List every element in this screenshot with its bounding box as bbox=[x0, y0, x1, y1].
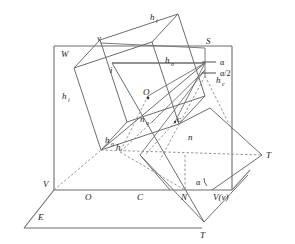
label-V-v: V(v) bbox=[213, 192, 229, 202]
label-E: E bbox=[37, 212, 44, 222]
svg-text:n: n bbox=[140, 114, 145, 124]
point-O bbox=[147, 97, 150, 100]
ground-plane-left-edge bbox=[24, 190, 54, 228]
label-v-small: v bbox=[97, 33, 101, 43]
slab-connector-edges bbox=[74, 14, 205, 150]
oblique-i-to-T bbox=[112, 63, 204, 222]
label-h-i-left: h i bbox=[62, 91, 70, 103]
label-c: c bbox=[177, 114, 181, 124]
dash-S-down-left bbox=[160, 76, 205, 160]
label-h-plain: h bbox=[116, 142, 121, 152]
label-alpha-lower: α bbox=[196, 178, 201, 187]
ground-plane-right-edge bbox=[232, 170, 250, 190]
svg-text:o: o bbox=[146, 120, 149, 126]
label-T-right: T bbox=[266, 150, 272, 160]
dashed-construction-lines bbox=[54, 76, 262, 190]
svg-text:o: o bbox=[111, 141, 114, 147]
label-O-center: O bbox=[143, 87, 150, 97]
dash-horizon bbox=[101, 150, 262, 155]
dash-to-N bbox=[120, 152, 185, 190]
svg-text:i: i bbox=[68, 97, 70, 103]
label-W: W bbox=[61, 49, 70, 59]
svg-text:h: h bbox=[150, 12, 155, 22]
svg-text:h: h bbox=[105, 135, 110, 145]
dash-O-down bbox=[120, 96, 148, 152]
label-C: C bbox=[137, 192, 144, 202]
label-alpha-half: α/2 bbox=[220, 69, 230, 78]
oblique-h-to-T bbox=[140, 155, 204, 222]
geometry-figure: h i h i W v i S h o α α/2 h c O bbox=[0, 0, 295, 244]
dash-no-down bbox=[120, 122, 152, 152]
label-V-left: V bbox=[43, 179, 50, 189]
right-triangle-T bbox=[179, 108, 262, 190]
point-c bbox=[174, 121, 176, 123]
svg-text:h: h bbox=[216, 75, 221, 85]
svg-text:h: h bbox=[62, 91, 67, 101]
label-N: N bbox=[180, 192, 188, 202]
label-h-o-upper: h o bbox=[165, 55, 174, 67]
svg-text:o: o bbox=[171, 61, 174, 67]
right-T-triangle-edges bbox=[210, 108, 262, 190]
diagram-canvas: h i h i W v i S h o α α/2 h c O bbox=[0, 0, 295, 244]
ray-S-to-h bbox=[140, 70, 205, 155]
label-S: S bbox=[206, 36, 211, 46]
angle-arc-lower bbox=[204, 178, 207, 186]
dash-V-to-h bbox=[54, 150, 101, 190]
alpha-arc-at-Vv bbox=[204, 178, 207, 186]
svg-text:h: h bbox=[165, 55, 170, 65]
label-O-bottom: O bbox=[85, 192, 92, 202]
label-alpha-upper: α bbox=[220, 58, 225, 67]
label-i: i bbox=[110, 65, 113, 75]
label-T-bottom: T bbox=[200, 230, 206, 240]
tilted-square-inner bbox=[74, 42, 179, 150]
label-n: n bbox=[188, 132, 193, 142]
inner-square-outline bbox=[74, 42, 179, 150]
svg-text:c: c bbox=[222, 81, 225, 87]
